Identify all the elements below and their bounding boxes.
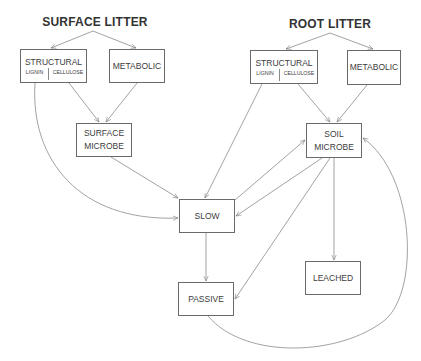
- surface-cellulose-label: CELLULOSE: [48, 66, 88, 79]
- slow-label: SLOW: [194, 210, 219, 223]
- arrow-surface-cellulose-to-surface-microbe: [69, 83, 99, 122]
- slow-box: SLOW: [179, 199, 235, 233]
- arrow-root-litter-to-structural: [286, 33, 330, 49]
- root-structural-box: STRUCTURAL LIGNIN CELLULOSE: [250, 50, 318, 84]
- leached-box: LEACHED: [305, 261, 361, 295]
- arrow-surface-microbe-to-slow: [111, 157, 178, 198]
- surface-lignin-label: LIGNIN: [21, 66, 48, 79]
- arrow-root-cellulose-to-soil-microbe: [298, 84, 330, 122]
- root-lignin-label: LIGNIN: [251, 67, 279, 80]
- arrow-passive-to-soil-microbe: [208, 138, 407, 348]
- passive-box: PASSIVE: [178, 282, 234, 316]
- root-cellulose-label: CELLULOSE: [279, 67, 319, 80]
- surface-metabolic-box: METABOLIC: [109, 49, 165, 83]
- arrow-surface-litter-to-metabolic: [93, 31, 136, 48]
- passive-label: PASSIVE: [188, 293, 224, 306]
- arrow-soil-microbe-to-slow: [236, 158, 322, 216]
- root-metabolic-box: METABOLIC: [347, 50, 401, 85]
- root-litter-title: ROOT LITTER: [289, 17, 371, 31]
- surface-metabolic-label: METABOLIC: [113, 60, 162, 73]
- surface-microbe-box: SURFACE MICROBE: [76, 123, 132, 157]
- arrow-surface-litter-to-structural: [51, 31, 93, 48]
- surface-microbe-label: SURFACE MICROBE: [84, 127, 124, 153]
- root-metabolic-label: METABOLIC: [350, 61, 399, 74]
- surface-litter-title: SURFACE LITTER: [42, 15, 147, 29]
- arrow-root-litter-to-metabolic: [330, 33, 373, 49]
- soil-microbe-label: SOIL MICROBE: [314, 128, 354, 154]
- soil-microbe-box: SOIL MICROBE: [306, 123, 362, 158]
- arrow-surface-metabolic-to-surface-microbe: [106, 83, 137, 122]
- leached-label: LEACHED: [313, 272, 353, 285]
- surface-structural-box: STRUCTURAL LIGNIN CELLULOSE: [20, 49, 87, 83]
- arrow-root-lignin-to-slow: [205, 84, 262, 198]
- arrow-root-metabolic-to-soil-microbe: [337, 85, 367, 122]
- arrow-slow-to-soil-microbe: [235, 140, 305, 200]
